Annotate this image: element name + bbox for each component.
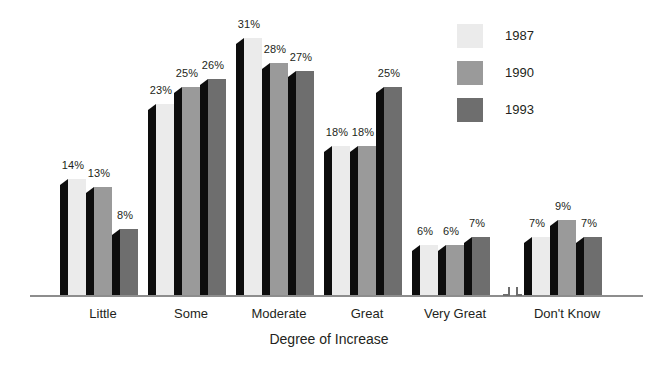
bar[interactable]: 6% <box>412 239 438 295</box>
bar-side-face <box>550 220 558 295</box>
bar-body <box>464 237 490 295</box>
x-axis-line <box>30 295 643 297</box>
bar-value-label: 18% <box>346 126 380 138</box>
bar-body <box>148 104 174 295</box>
legend-swatch-1993 <box>457 98 483 122</box>
bar[interactable]: 6% <box>438 239 464 295</box>
bar[interactable]: 27% <box>288 65 314 295</box>
bar-body <box>262 63 288 295</box>
bar-front-face <box>558 220 576 295</box>
plot-area: 14%13%8%23%25%26%31%28%27%18%18%25%6%6%7… <box>0 0 658 300</box>
bar-group: 31%28%27% <box>236 5 322 295</box>
bar-group: 7%9%7% <box>524 5 610 295</box>
bar-side-face <box>86 187 94 295</box>
legend-label-1993: 1993 <box>505 102 534 117</box>
bar-side-face <box>376 87 384 295</box>
bar[interactable]: 13% <box>86 181 112 295</box>
bar[interactable]: 18% <box>350 140 376 295</box>
bar-value-label: 13% <box>82 167 116 179</box>
bar-side-face <box>576 237 584 295</box>
bar-body <box>112 229 138 295</box>
bar-side-face <box>464 237 472 295</box>
bar-body <box>236 38 262 295</box>
bar-value-label: 9% <box>546 200 580 212</box>
bar-front-face <box>208 79 226 295</box>
bar-side-face <box>524 237 532 295</box>
bar[interactable]: 7% <box>464 231 490 295</box>
bar-value-label: 8% <box>108 209 142 221</box>
bar-side-face <box>112 229 120 295</box>
bar-body <box>60 179 86 295</box>
bar-front-face <box>120 229 138 295</box>
bar-body <box>576 237 602 295</box>
category-label: Don't Know <box>502 306 632 321</box>
bar-side-face <box>412 245 420 295</box>
bar-front-face <box>68 179 86 295</box>
bar-front-face <box>358 146 376 295</box>
bar[interactable]: 26% <box>200 73 226 295</box>
bar[interactable]: 25% <box>376 81 402 295</box>
bar-value-label: 26% <box>196 59 230 71</box>
bar-body <box>174 87 200 295</box>
bar-body <box>350 146 376 295</box>
bar[interactable]: 23% <box>148 98 174 295</box>
legend-swatch-1987 <box>457 24 483 48</box>
bar-value-label: 25% <box>372 67 406 79</box>
bar-value-label: 7% <box>520 217 554 229</box>
category-label: Very Great <box>390 306 520 321</box>
bar-front-face <box>384 87 402 295</box>
bar-group: 14%13%8% <box>60 5 146 295</box>
bar[interactable]: 8% <box>112 223 138 295</box>
bar[interactable]: 25% <box>174 81 200 295</box>
bar[interactable]: 31% <box>236 32 262 295</box>
bar-body <box>438 245 464 295</box>
bar-side-face <box>236 38 244 295</box>
bar-body <box>524 237 550 295</box>
bar[interactable]: 7% <box>524 231 550 295</box>
bar-front-face <box>446 245 464 295</box>
legend-label-1987: 1987 <box>505 28 534 43</box>
bar-side-face <box>438 245 446 295</box>
bar-value-label: 27% <box>284 51 318 63</box>
bar-front-face <box>156 104 174 295</box>
bar-group: 6%6%7% <box>412 5 498 295</box>
bar-front-face <box>244 38 262 295</box>
bar-front-face <box>296 71 314 295</box>
bar-side-face <box>288 71 296 295</box>
bar-value-label: 7% <box>572 217 606 229</box>
bar-body <box>288 71 314 295</box>
axis-break-foot-right <box>517 294 522 296</box>
bar-side-face <box>200 79 208 295</box>
bar-body <box>550 220 576 295</box>
legend-label-1990: 1990 <box>505 65 534 80</box>
legend-swatch-1990 <box>457 61 483 85</box>
bar[interactable]: 28% <box>262 57 288 295</box>
bar[interactable]: 14% <box>60 173 86 295</box>
bar-body <box>200 79 226 295</box>
bar-side-face <box>148 104 156 295</box>
bar-front-face <box>270 63 288 295</box>
bar[interactable]: 7% <box>576 231 602 295</box>
x-axis-title: Degree of Increase <box>0 331 658 347</box>
bar-side-face <box>324 146 332 295</box>
bar-side-face <box>60 179 68 295</box>
bar[interactable]: 18% <box>324 140 350 295</box>
bar-value-label: 31% <box>232 18 266 30</box>
bar-value-label: 7% <box>460 217 494 229</box>
bar-body <box>376 87 402 295</box>
bar-body <box>86 187 112 295</box>
bar-front-face <box>472 237 490 295</box>
bar-front-face <box>532 237 550 295</box>
bar-front-face <box>332 146 350 295</box>
bar-front-face <box>420 245 438 295</box>
bar-body <box>324 146 350 295</box>
bar-front-face <box>94 187 112 295</box>
bar-body <box>412 245 438 295</box>
bar-value-label: 23% <box>144 84 178 96</box>
bar-front-face <box>182 87 200 295</box>
bar-side-face <box>174 87 182 295</box>
bar-group: 18%18%25% <box>324 5 410 295</box>
axis-break-mark-left <box>508 287 510 296</box>
bar-front-face <box>584 237 602 295</box>
bar-chart: 14%13%8%23%25%26%31%28%27%18%18%25%6%6%7… <box>0 0 658 366</box>
